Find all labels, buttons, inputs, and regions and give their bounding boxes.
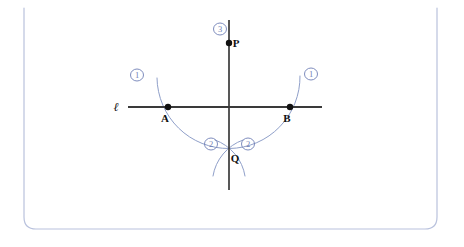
point-label-a: A [161,112,169,124]
step-3-top: 3 [214,23,227,35]
point-label-p: P [233,37,240,49]
point-a-dot [165,104,171,110]
straight-lines-group [128,20,322,190]
point-p-dot [226,40,232,46]
point-label-q: Q [231,152,240,164]
step-2-left-text: 2 [209,139,213,149]
labeled-points-group: PABQ [161,37,293,164]
step-3-top-text: 3 [218,24,222,34]
label-line-ell: ℓ [114,100,119,114]
point-label-b: B [283,112,291,124]
point-b-dot [287,104,293,110]
step-1-right-text: 1 [309,69,313,79]
step-1-right: 1 [305,68,318,80]
step-1-left: 1 [131,69,144,81]
line-labels-group: ℓ [114,100,119,114]
diagram-canvas: PABQ 11223 ℓ [0,0,464,247]
step-2-right: 2 [242,138,255,150]
geometry-figure: PABQ 11223 ℓ [0,0,464,247]
step-1-left-text: 1 [135,70,139,80]
step-number-labels-group: 11223 [131,23,318,150]
step-2-right-text: 2 [246,139,250,149]
step-2-left: 2 [205,138,218,150]
